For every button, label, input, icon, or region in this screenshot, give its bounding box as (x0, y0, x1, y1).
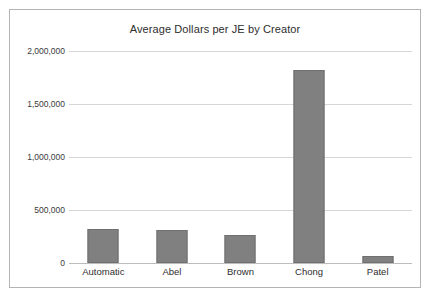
plot-area (69, 51, 412, 263)
x-tick-label: Automatic (82, 266, 124, 277)
x-tick-label: Chong (295, 266, 323, 277)
x-tick-label: Brown (227, 266, 254, 277)
x-tick-label: Abel (162, 266, 181, 277)
bar-series (69, 51, 412, 263)
chart-frame: Average Dollars per JE by Creator 0500,0… (9, 9, 421, 288)
bar[interactable] (156, 230, 187, 263)
x-axis-tick-labels: AutomaticAbelBrownChongPatel (69, 266, 412, 284)
chart-title: Average Dollars per JE by Creator (10, 23, 420, 35)
bar-slot (206, 51, 275, 263)
bar[interactable] (225, 235, 256, 263)
bar-slot (69, 51, 138, 263)
y-tick-label: 2,000,000 (9, 46, 65, 56)
y-tick-label: 500,000 (9, 205, 65, 215)
bar-slot (275, 51, 344, 263)
x-tick-label: Patel (367, 266, 389, 277)
bar[interactable] (88, 229, 119, 263)
y-tick-label: 1,000,000 (9, 152, 65, 162)
y-tick-label: 0 (9, 258, 65, 268)
y-tick-label: 1,500,000 (9, 99, 65, 109)
bar-slot (138, 51, 207, 263)
bar[interactable] (362, 256, 393, 263)
bar-slot (343, 51, 412, 263)
bar[interactable] (294, 70, 325, 263)
y-axis-tick-labels: 0500,0001,000,0001,500,0002,000,000 (10, 51, 65, 263)
x-axis-line (69, 263, 412, 264)
